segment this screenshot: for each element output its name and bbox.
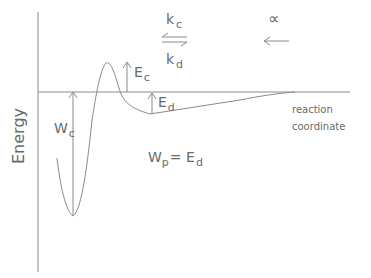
energy-diagram: Energy reaction coordinate kc kd ∝ Ec Ed… xyxy=(0,0,371,278)
x-axis-label-line2: coordinate xyxy=(292,121,345,132)
equilibrium-arrows-icon xyxy=(162,33,187,46)
left-arrow-icon xyxy=(264,37,289,45)
ec-label: Ec xyxy=(134,64,150,84)
kd-label: kd xyxy=(166,51,183,71)
potential-curve xyxy=(57,63,295,216)
energy-axis-label: Energy xyxy=(9,108,28,164)
x-axis-label-line1: reaction xyxy=(292,104,333,115)
wp-equation: Wp= Ed xyxy=(148,149,203,169)
diagram-canvas: Energy reaction coordinate kc kd ∝ Ec Ed… xyxy=(0,0,371,278)
kc-label: kc xyxy=(166,11,182,31)
proportional-symbol: ∝ xyxy=(268,9,279,28)
wc-label: Wc xyxy=(54,120,75,140)
